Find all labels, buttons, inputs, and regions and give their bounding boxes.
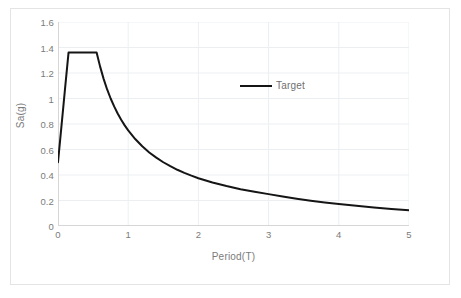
x-axis-tick-labels: 012345 bbox=[58, 229, 409, 245]
x-tick-label: 0 bbox=[55, 229, 60, 240]
y-tick-label: 0.8 bbox=[40, 119, 54, 130]
x-tick-label: 3 bbox=[266, 229, 271, 240]
horizontal-gridlines bbox=[58, 22, 409, 201]
plot-svg bbox=[58, 22, 409, 226]
x-tick-label: 1 bbox=[125, 229, 130, 240]
y-tick-label: 0.6 bbox=[40, 144, 54, 155]
y-tick-label: 1.2 bbox=[40, 68, 54, 79]
legend-line-swatch-target bbox=[240, 85, 272, 87]
legend-label-target: Target bbox=[276, 80, 305, 91]
y-axis-title: Sa(g) bbox=[15, 86, 26, 146]
x-axis-title: Period(T) bbox=[58, 251, 409, 262]
chart-legend: Target bbox=[240, 80, 305, 91]
y-tick-label: 0.2 bbox=[40, 195, 54, 206]
response-spectrum-chart: 00.20.40.60.811.21.41.6 012345 Period(T)… bbox=[0, 0, 461, 298]
plot-area bbox=[58, 22, 409, 226]
y-tick-label: 1.6 bbox=[40, 17, 54, 28]
x-tick-label: 4 bbox=[336, 229, 341, 240]
x-tick-label: 2 bbox=[196, 229, 201, 240]
data-series-target bbox=[58, 53, 409, 211]
y-tick-label: 1.4 bbox=[40, 42, 54, 53]
y-tick-label: 1 bbox=[49, 93, 54, 104]
y-tick-label: 0.4 bbox=[40, 170, 54, 181]
y-tick-label: 0 bbox=[49, 221, 54, 232]
x-tick-label: 5 bbox=[406, 229, 411, 240]
